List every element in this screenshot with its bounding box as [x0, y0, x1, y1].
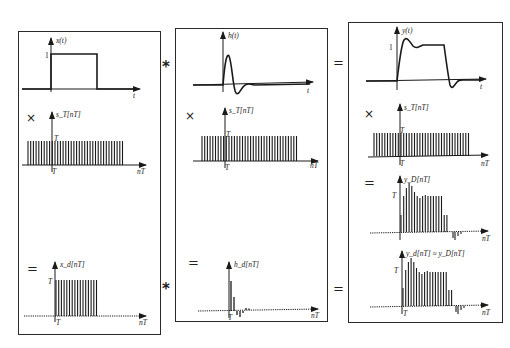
axis-t: t	[133, 91, 136, 100]
plot-sampling-train-output: s_T[nT] T T nT	[368, 103, 490, 168]
plot-sampling-train-input: s_T[nT] T T nT	[22, 110, 146, 176]
tick-T-origin: T	[400, 159, 405, 168]
tick-1: 1	[45, 51, 49, 60]
axis-nT: nT	[137, 167, 146, 176]
plot-sampling-train-system: s_T[nT] T T nT	[193, 106, 319, 172]
tick-1: 1	[389, 43, 393, 52]
tick-T-origin: T	[228, 313, 233, 322]
label-x-t: x(t)	[55, 36, 67, 45]
plot-x-continuous: x(t) 1 t	[22, 36, 140, 100]
label-sT: s_T[nT]	[229, 106, 254, 115]
signal-plots: x(t) 1 t s_T[nT] T T nT x_d[nT] T T nT h…	[0, 0, 510, 348]
tick-T-level: T	[392, 191, 397, 200]
plot-y-discrete-convolution: y_d[nT] ≈ y_D[nT] T T nT	[370, 249, 491, 318]
axis-nT: nT	[310, 161, 319, 170]
label-hd: h_d[nT]	[234, 260, 259, 269]
tick-T-level: T	[226, 130, 231, 139]
plot-y-continuous: y(t) 1 t	[366, 26, 486, 91]
tick-T-origin: T	[225, 163, 230, 172]
tick-T-origin: T	[403, 309, 408, 318]
plot-h-sampled: h_d[nT] T nT	[198, 260, 320, 322]
axis-nT: nT	[311, 311, 320, 320]
axis-t: t	[480, 82, 483, 91]
tick-T-level: T	[48, 277, 53, 286]
label-y-t: y(t)	[401, 26, 413, 35]
label-sT: s_T[nT]	[404, 103, 429, 112]
axis-nT: nT	[482, 308, 491, 317]
tick-T-origin: T	[56, 318, 61, 327]
axis-nT: nT	[481, 159, 490, 168]
plot-h-continuous: h(t) t	[193, 31, 313, 95]
axis-nT: nT	[139, 318, 148, 327]
label-yd-approx: y_d[nT] ≈ y_D[nT]	[405, 249, 465, 258]
axis-t: t	[307, 86, 310, 95]
plot-y-sampled: y_D[nT] T nT	[370, 175, 491, 243]
label-sT: s_T[nT]	[56, 110, 81, 119]
tick-T-origin: T	[52, 167, 57, 176]
tick-T-level: T	[394, 266, 399, 275]
axis-nT: nT	[482, 234, 491, 243]
label-yD: y_D[nT]	[403, 175, 430, 184]
label-h-t: h(t)	[228, 31, 239, 40]
label-xd: x_d[nT]	[59, 260, 85, 269]
plot-x-sampled: x_d[nT] T T nT	[24, 260, 148, 327]
